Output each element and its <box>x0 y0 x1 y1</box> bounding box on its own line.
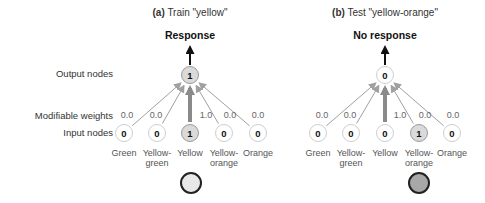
panel-b-weight-4: 0.0 <box>419 110 432 120</box>
panel-a-weight-4: 0.0 <box>224 110 237 120</box>
panel-a-weight-5: 0.0 <box>252 110 265 120</box>
panel-b-title: (b) Test "yellow-orange" <box>332 7 438 18</box>
panel-b-input-orange: 0 <box>443 124 461 142</box>
panel-b-label-green: Green <box>305 148 330 158</box>
panel-a-label-yellow-green: Yellow- green <box>143 148 172 168</box>
panel-b-label-yellow: Yellow <box>372 148 398 158</box>
panel-b-input-yellow: 0 <box>376 124 394 142</box>
panel-b-output-node: 0 <box>376 66 394 84</box>
panel-a-input-orange: 0 <box>249 124 267 142</box>
panel-a-input-yellow-green: 0 <box>148 124 166 142</box>
panel-a-weight-2: 0.0 <box>150 110 163 120</box>
panel-b-weight-1: 0.0 <box>316 110 329 120</box>
panel-a-label-yellow-orange: Yellow- orange <box>210 148 239 168</box>
panel-b-label-yellow-orange: Yellow- orange <box>405 148 434 168</box>
panel-b-input-yellow-green: 0 <box>342 124 360 142</box>
panel-a-label-orange: Orange <box>243 148 273 158</box>
panel-b-label-orange: Orange <box>437 148 467 158</box>
panel-a-weight-1: 0.0 <box>121 110 134 120</box>
panel-b-input-green: 0 <box>309 124 327 142</box>
panel-a-input-green: 0 <box>115 124 133 142</box>
panel-b-weight-5: 0.0 <box>447 110 460 120</box>
panel-b-response: No response <box>353 29 417 41</box>
panel-a-label-yellow: Yellow <box>177 148 203 158</box>
panel-b-label-yellow-green: Yellow- green <box>337 148 366 168</box>
panel-a-input-yellow: 1 <box>181 124 199 142</box>
panel-a-input-yellow-orange: 0 <box>215 124 233 142</box>
panel-a-output-node: 1 <box>181 66 199 84</box>
panel-a-stimulus-swatch <box>180 172 202 194</box>
panel-b-weight-2: 0.0 <box>344 110 357 120</box>
panel-a-label-green: Green <box>111 148 136 158</box>
panel-b-input-yellow-orange: 1 <box>410 124 428 142</box>
panel-b-stimulus-swatch <box>408 172 430 194</box>
panel-a-response: Response <box>165 29 215 41</box>
panel-a-title: (a) Train "yellow" <box>153 7 228 18</box>
panel-a-weight-3: 1.0 <box>200 110 213 120</box>
panel-b-weight-3: 1.0 <box>394 110 407 120</box>
